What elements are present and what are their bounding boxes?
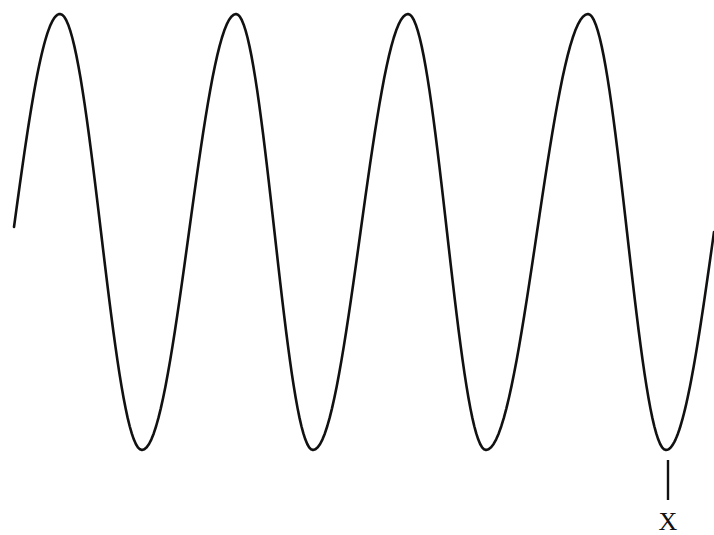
sine-wave-curve	[14, 14, 714, 450]
trough-marker-label: X	[659, 507, 678, 535]
wave-diagram: X	[0, 0, 714, 535]
